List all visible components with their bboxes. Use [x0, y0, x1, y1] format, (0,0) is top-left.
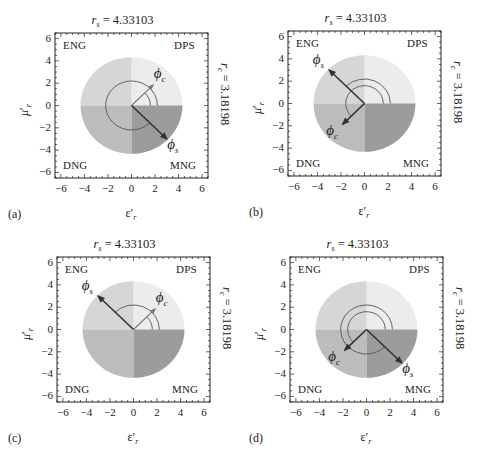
quadrant-text: ENG — [65, 263, 88, 275]
quadrant-eng — [316, 281, 367, 329]
tick-text: −2 — [102, 182, 114, 194]
x-tick-label: 0 — [357, 180, 373, 192]
y-symbol: μ — [252, 333, 266, 339]
tick-text: 6 — [281, 256, 287, 268]
panel-title: rs = 4.33103 — [94, 237, 156, 252]
panel-c: −6−4−20246−6−4−20246ENGDPSDNGMNGrs = 4.3… — [0, 230, 241, 460]
phi-s-label: ϕs — [167, 136, 178, 153]
phi-subscript: s — [89, 286, 93, 296]
x-tick-label: 6 — [196, 406, 212, 418]
tick-text: 4 — [279, 52, 285, 64]
x-tick-label: 2 — [380, 180, 396, 192]
phi-c-label: ϕc — [156, 289, 168, 306]
quadrant-mng — [365, 104, 416, 152]
quadrant-label-eng: ENG — [298, 263, 321, 275]
tick-text: −6 — [274, 389, 286, 401]
title-subscript: s — [96, 20, 99, 29]
tick-text: 4 — [178, 406, 184, 418]
quadrant-label-eng: ENG — [296, 37, 319, 49]
y-tick-label: 2 — [268, 300, 286, 312]
y-subscript: r — [259, 328, 268, 331]
rc-subscript: c — [449, 66, 458, 70]
tick-text: −2 — [274, 345, 286, 357]
tick-text: 2 — [152, 182, 158, 194]
tick-text: −6 — [41, 389, 53, 401]
x-subscript: r — [366, 211, 369, 220]
prime: ′ — [19, 331, 33, 334]
tick-text: 0 — [48, 323, 54, 335]
tick-text: 6 — [199, 182, 205, 194]
x-axis-label: ε′r — [361, 430, 372, 445]
tick-text: 6 — [46, 32, 52, 44]
panel-tag: (b) — [249, 205, 263, 220]
phi-symbol: ϕ — [167, 136, 175, 152]
y-tick-label: −6 — [266, 163, 284, 175]
tick-text: 2 — [281, 300, 287, 312]
r-c-label: rc = 3.18198 — [452, 287, 467, 349]
tick-text: 0 — [281, 323, 287, 335]
phi-subscript: s — [410, 369, 414, 379]
x-tick-label: −2 — [333, 180, 349, 192]
quadrant-label-mng: MNG — [403, 157, 429, 169]
quadrant-text: MNG — [172, 383, 198, 395]
tick-text: 2 — [46, 76, 52, 88]
phi-subscript: c — [336, 357, 340, 367]
x-tick-label: 2 — [149, 406, 165, 418]
quadrant-text: DPS — [174, 39, 195, 51]
y-symbol: μ — [250, 107, 264, 113]
quadrant-dng — [83, 330, 134, 378]
tick-text: 0 — [129, 182, 135, 194]
panel-tag: (d) — [249, 431, 263, 446]
panel-tag-text: (c) — [8, 431, 21, 445]
title-subscript: s — [98, 244, 101, 253]
rc-value: = 3.18198 — [220, 295, 234, 349]
r-c-label: rc = 3.18198 — [450, 61, 465, 123]
x-tick-label: −6 — [288, 406, 304, 418]
y-tick-label: 0 — [35, 323, 53, 335]
x-tick-label: −4 — [311, 406, 327, 418]
r-c-label: rc = 3.18198 — [219, 287, 234, 349]
y-tick-label: 2 — [35, 300, 53, 312]
phi-symbol: ϕ — [328, 348, 336, 364]
panel-d: −6−4−20246−6−4−20246ENGDPSDNGMNGrs = 4.3… — [241, 230, 482, 460]
panel-a: −6−4−20246−6−4−20246ENGDPSDNGMNGrs = 4.3… — [0, 0, 241, 230]
x-tick-label: 4 — [173, 406, 189, 418]
panel-title: rs = 4.33103 — [327, 237, 389, 252]
panel-title: rs = 4.33103 — [92, 13, 154, 28]
quadrant-text: ENG — [298, 263, 321, 275]
phi-subscript: s — [320, 60, 324, 70]
quadrant-text: MNG — [403, 157, 429, 169]
y-tick-label: 4 — [266, 52, 284, 64]
x-subscript: r — [368, 437, 371, 446]
tick-text: −2 — [337, 406, 349, 418]
title-value: = 4.33103 — [102, 237, 156, 251]
y-symbol: μ — [19, 333, 33, 339]
quadrant-text: DPS — [176, 263, 197, 275]
quadrant-label-dps: DPS — [409, 263, 430, 275]
quadrant-text: DNG — [65, 383, 89, 395]
tick-text: −4 — [272, 141, 284, 153]
quadrant-label-eng: ENG — [65, 263, 88, 275]
phi-s-label: ϕs — [82, 277, 93, 294]
r-c-label: rc = 3.18198 — [217, 63, 232, 125]
quadrant-text: MNG — [405, 383, 431, 395]
tick-text: 6 — [201, 406, 207, 418]
phi-s-label: ϕs — [313, 51, 324, 68]
x-tick-label: 6 — [194, 182, 210, 194]
tick-text: 4 — [176, 182, 182, 194]
quadrant-text: MNG — [170, 159, 196, 171]
x-axis-label: ε′r — [128, 430, 139, 445]
title-subscript: s — [331, 244, 334, 253]
tick-text: 0 — [362, 180, 368, 192]
tick-text: −6 — [39, 165, 51, 177]
quadrant-dps — [367, 281, 418, 329]
tick-text: 6 — [432, 180, 438, 192]
quadrant-label-mng: MNG — [172, 383, 198, 395]
y-symbol: μ — [17, 109, 31, 115]
tick-text: −6 — [57, 406, 69, 418]
title-value: = 4.33103 — [335, 237, 389, 251]
y-tick-label: −4 — [33, 143, 51, 155]
panel-tag: (a) — [8, 207, 21, 222]
y-tick-label: 0 — [33, 99, 51, 111]
x-tick-label: −6 — [286, 180, 302, 192]
